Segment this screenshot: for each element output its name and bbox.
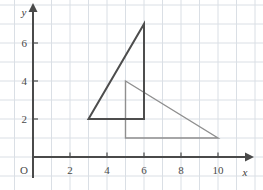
x-tick-label: 2 bbox=[67, 164, 73, 176]
x-tick-label: 8 bbox=[178, 164, 184, 176]
y-tick-label: 6 bbox=[22, 37, 28, 49]
y-tick-label: 2 bbox=[22, 113, 28, 125]
origin-label: O bbox=[20, 164, 28, 176]
y-axis-tick-labels: 2 4 6 bbox=[22, 37, 28, 125]
x-axis-tick-labels: 2 4 6 8 10 bbox=[67, 164, 224, 176]
x-tick-label: 4 bbox=[104, 164, 110, 176]
coordinate-plane-figure: 2 4 6 8 10 2 4 6 O x y bbox=[0, 0, 263, 190]
y-axis-label: y bbox=[21, 6, 27, 18]
graph-canvas: 2 4 6 8 10 2 4 6 O x y bbox=[0, 0, 263, 190]
dark-triangle bbox=[89, 24, 145, 119]
light-triangle bbox=[126, 81, 219, 138]
x-tick-label: 6 bbox=[141, 164, 147, 176]
y-tick-label: 4 bbox=[22, 75, 28, 87]
x-axis-arrow-icon bbox=[245, 153, 254, 162]
x-axis-label: x bbox=[242, 166, 248, 178]
y-axis-arrow-icon bbox=[29, 3, 38, 12]
grid-lines bbox=[0, 0, 263, 190]
x-tick-label: 10 bbox=[213, 164, 225, 176]
